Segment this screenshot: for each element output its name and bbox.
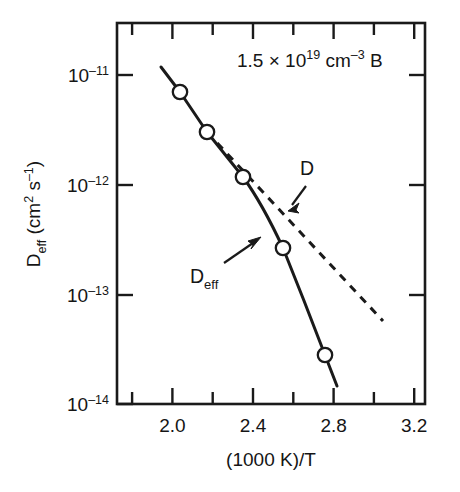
annot-units: cm (320, 50, 351, 71)
annot-times-icon: × (269, 50, 280, 71)
arrhenius-plot-svg: 2.0 2.4 2.8 3.2 10–11 10–12 10–13 10–14 … (0, 0, 460, 492)
data-point-marker (318, 348, 332, 362)
y-tick-exponent-0: –11 (89, 64, 109, 78)
y-axis-title: Deff (cm2 s–1) (22, 161, 49, 267)
y-tick-label-2: 10–13 (67, 284, 109, 306)
data-point-marker (236, 170, 250, 184)
y-tick-mantissa-1: 10 (67, 175, 88, 196)
y-tick-exponent-1: –12 (88, 174, 109, 188)
figure-container: 2.0 2.4 2.8 3.2 10–11 10–12 10–13 10–14 … (0, 0, 460, 492)
curve-label-D: D (300, 157, 314, 179)
y-tick-exponent-3: –14 (88, 393, 109, 407)
x-tick-label-1: 2.4 (240, 415, 267, 436)
axes-frame (117, 23, 425, 404)
data-point-marker (276, 241, 290, 255)
y-axis-title-units-s: s (23, 181, 44, 196)
curve-label-Deff-main: D (190, 265, 204, 287)
y-axis-title-main: D (23, 253, 44, 267)
x-axis-title: (1000 K)/T (226, 449, 316, 470)
y-axis-title-sub: eff (35, 239, 49, 253)
y-tick-mantissa-3: 10 (67, 394, 88, 415)
x-tick-labels: 2.0 2.4 2.8 3.2 (159, 415, 427, 436)
y-axis-title-units-close: ) (23, 161, 44, 167)
data-point-marker (173, 85, 187, 99)
annot-units-exponent: –3 (351, 48, 365, 62)
x-tick-label-0: 2.0 (159, 415, 185, 436)
x-tick-label-2: 2.8 (320, 415, 346, 436)
annot-prefix: 1.5 (237, 50, 269, 71)
y-axis-title-units-open: (cm (23, 203, 44, 240)
y-axis-title-sup2: –1 (22, 167, 36, 181)
y-tick-label-0: 10–11 (68, 64, 109, 86)
annot-species: B (365, 50, 383, 71)
x-tick-label-3: 3.2 (401, 415, 427, 436)
y-axis-title-sup1: 2 (22, 196, 36, 203)
y-tick-exponent-2: –13 (88, 284, 109, 298)
annot-base: 10 (280, 50, 306, 71)
annot-exponent: 19 (306, 48, 320, 62)
y-tick-label-1: 10–12 (67, 174, 109, 196)
y-tick-label-3: 10–14 (67, 393, 109, 415)
y-tick-mantissa-2: 10 (67, 285, 88, 306)
curve-label-Deff-sub: eff (204, 277, 219, 292)
y-tick-mantissa-0: 10 (68, 65, 89, 86)
data-point-marker (200, 125, 214, 139)
y-tick-labels: 10–11 10–12 10–13 10–14 (67, 64, 109, 415)
plot-frame-rect (117, 23, 425, 404)
